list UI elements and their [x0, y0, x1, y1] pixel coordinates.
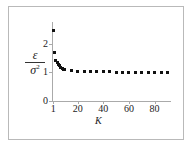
data-point [160, 71, 163, 74]
figure-container: 120406080 012 K ε σ2 [0, 0, 194, 149]
x-axis-title: K [95, 115, 102, 126]
y-tick-2 [49, 44, 52, 45]
x-axis-line [52, 101, 171, 102]
data-point [166, 71, 169, 74]
y-tick-0 [49, 101, 52, 102]
data-point [53, 51, 56, 54]
data-point [134, 71, 137, 74]
data-point [140, 71, 143, 74]
sigma-exponent: 2 [36, 63, 40, 71]
data-point [70, 69, 73, 72]
data-point [121, 71, 124, 74]
y-axis-denominator: σ2 [22, 63, 48, 76]
data-point [63, 68, 66, 71]
y-axis-line [52, 22, 53, 101]
y-axis-numerator: ε [22, 49, 48, 62]
y-axis-title: ε σ2 [22, 49, 48, 76]
y-tick-label-2: 2 [36, 38, 48, 49]
scatter-plot: 120406080 012 K ε σ2 [0, 0, 194, 149]
data-point [127, 71, 130, 74]
data-point [102, 70, 105, 73]
x-tick-label-80: 80 [146, 103, 164, 114]
x-tick-label-20: 20 [69, 103, 87, 114]
data-point [108, 70, 111, 73]
data-point [95, 70, 98, 73]
data-point [147, 71, 150, 74]
data-point [89, 70, 92, 73]
data-point [52, 29, 55, 32]
data-point [76, 70, 79, 73]
data-point [83, 70, 86, 73]
x-tick-label-60: 60 [120, 103, 138, 114]
x-tick-label-40: 40 [94, 103, 112, 114]
data-point [153, 71, 156, 74]
data-point [115, 71, 118, 74]
y-tick-label-0: 0 [36, 95, 48, 106]
y-tick-1 [49, 72, 52, 73]
